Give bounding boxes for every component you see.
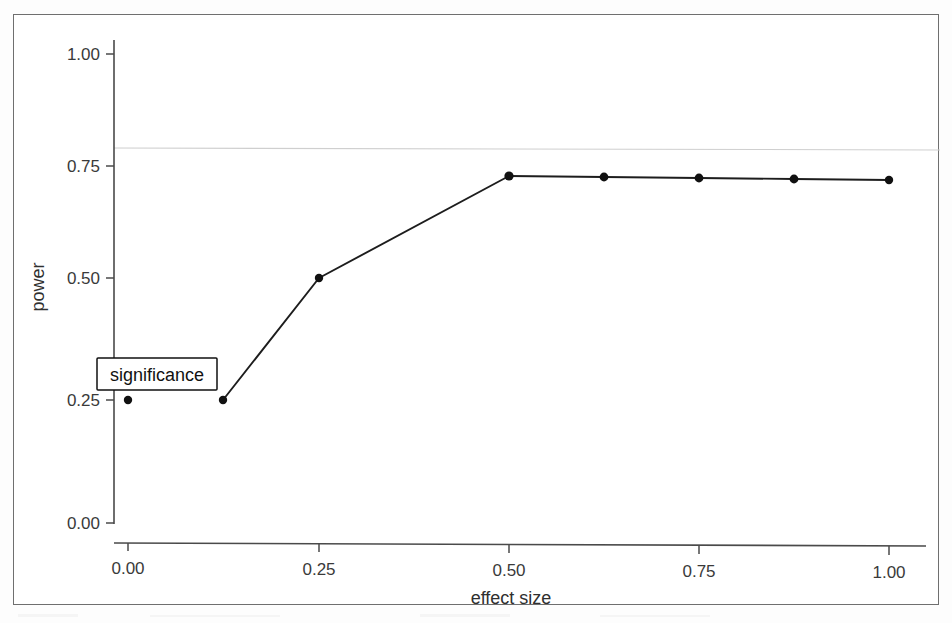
x-tick-label-0.00: 0.00 bbox=[111, 559, 144, 578]
scan-artifact bbox=[420, 614, 510, 617]
x-axis: 0.00 0.25 0.50 0.75 1.00 effect size bbox=[111, 543, 926, 606]
y-axis: 1.00 0.75 0.50 0.25 0.00 power bbox=[28, 40, 114, 533]
scan-artifact bbox=[600, 615, 710, 617]
significance-annotation-label: significance bbox=[110, 365, 204, 385]
scan-artifact bbox=[150, 615, 280, 617]
figure-frame: 1.00 0.75 0.50 0.25 0.00 power 0.00 0.25… bbox=[13, 14, 939, 605]
power-effect-size-chart: 1.00 0.75 0.50 0.25 0.00 power 0.00 0.25… bbox=[14, 15, 940, 606]
scanned-page: 1.00 0.75 0.50 0.25 0.00 power 0.00 0.25… bbox=[0, 0, 952, 623]
data-point bbox=[504, 171, 513, 180]
y-tick-label-0.50: 0.50 bbox=[67, 269, 100, 288]
data-point bbox=[695, 174, 704, 183]
data-point bbox=[885, 176, 893, 184]
data-point bbox=[600, 173, 609, 182]
x-tick-label-0.50: 0.50 bbox=[492, 561, 525, 580]
x-axis-line bbox=[114, 543, 926, 546]
significance-annotation: significance bbox=[97, 358, 217, 390]
y-tick-label-1.00: 1.00 bbox=[67, 45, 100, 64]
reference-line-group bbox=[114, 148, 940, 150]
x-tick-label-1.00: 1.00 bbox=[872, 563, 905, 582]
series-power-curve-line bbox=[223, 176, 889, 400]
series-significance-point bbox=[124, 396, 132, 404]
data-point bbox=[124, 396, 132, 404]
y-axis-title: power bbox=[28, 262, 48, 311]
data-point bbox=[315, 274, 323, 282]
x-tick-label-0.25: 0.25 bbox=[302, 560, 335, 579]
y-tick-label-0.25: 0.25 bbox=[67, 391, 100, 410]
x-tick-label-0.75: 0.75 bbox=[682, 562, 715, 581]
x-axis-title: effect size bbox=[471, 588, 552, 606]
scan-artifact bbox=[18, 614, 78, 617]
data-point bbox=[219, 396, 227, 404]
data-point bbox=[790, 175, 799, 184]
reference-line-0.80 bbox=[114, 148, 940, 150]
y-tick-label-0.00: 0.00 bbox=[67, 514, 100, 533]
series-power-curve bbox=[219, 171, 893, 404]
y-tick-label-0.75: 0.75 bbox=[67, 157, 100, 176]
